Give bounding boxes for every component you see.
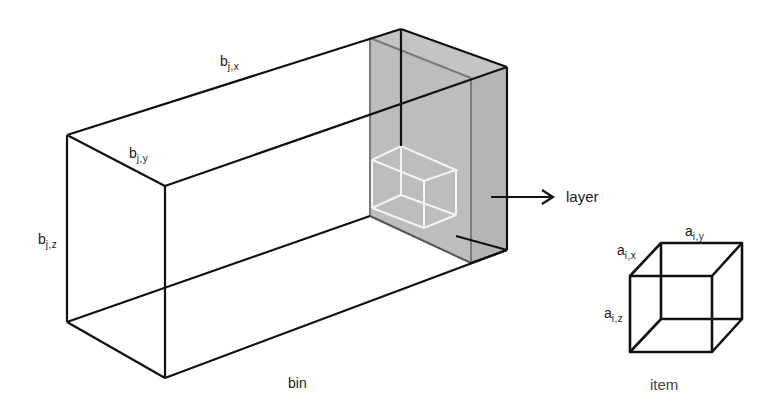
layer-caption: layer bbox=[566, 189, 599, 204]
layer-slab bbox=[370, 29, 507, 263]
bin-packing-diagram bbox=[0, 0, 770, 412]
bin-dim-x-label: bj,x bbox=[220, 54, 239, 72]
item-cube bbox=[630, 243, 742, 352]
bin-dim-z-label: bj,z bbox=[38, 232, 57, 250]
bin-dim-y-label: bj,y bbox=[129, 146, 148, 164]
item-dim-z-label: ai,z bbox=[604, 306, 623, 324]
item-dim-x-label: ai,x bbox=[617, 243, 636, 261]
bin-caption: bin bbox=[288, 376, 307, 390]
item-caption: item bbox=[650, 377, 678, 392]
item-dim-y-label: ai,y bbox=[685, 224, 704, 242]
